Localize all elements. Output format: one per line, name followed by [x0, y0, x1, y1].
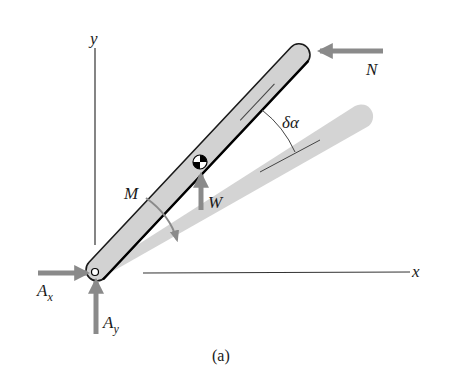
- moment-label: M: [123, 184, 139, 203]
- pin-icon: [92, 269, 99, 276]
- w-label: W: [208, 193, 224, 212]
- diagram-canvas: y x N W M δα Ax Ay (a): [0, 0, 454, 385]
- x-axis-label: x: [411, 262, 420, 281]
- angle-label: δα: [282, 113, 300, 132]
- ay-label: Ay: [102, 313, 119, 336]
- ax-label: Ax: [36, 281, 53, 304]
- center-of-gravity-icon: [193, 155, 207, 169]
- x-axis: [143, 272, 410, 273]
- n-label: N: [365, 60, 379, 79]
- y-axis-label: y: [88, 29, 98, 48]
- figure-caption: (a): [212, 347, 230, 365]
